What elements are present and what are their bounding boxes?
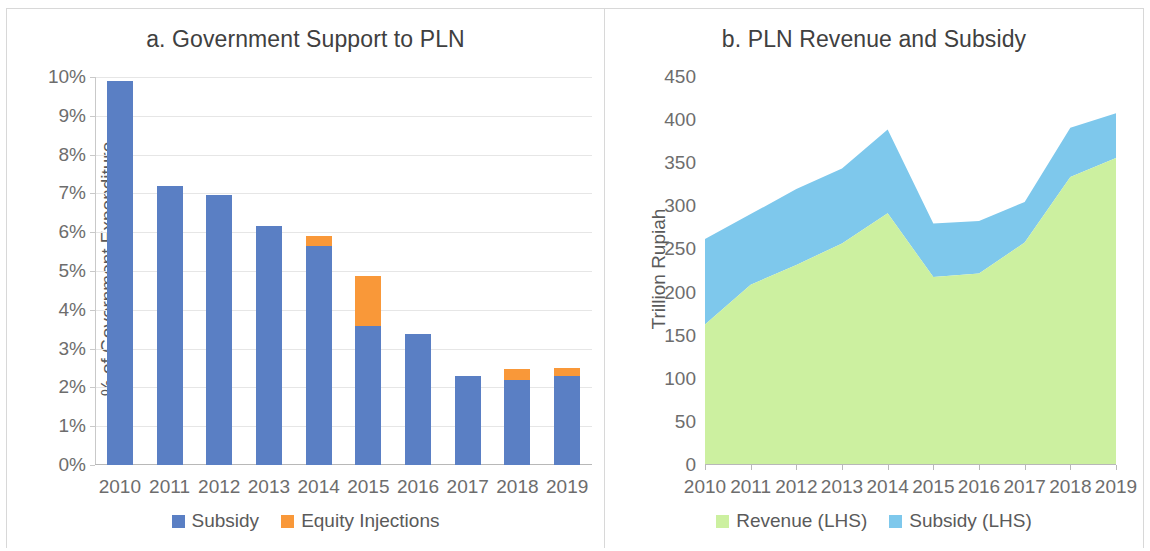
panel-b-y-axis-title: Trillion Rupiah (648, 139, 670, 399)
y-tick-label: 0 (685, 454, 696, 476)
y-tick-label: 50 (675, 411, 696, 433)
bar-segment-subsidy[interactable] (455, 376, 481, 465)
bar-segment-subsidy[interactable] (554, 376, 580, 465)
x-tickmark (842, 465, 843, 470)
legend-label: Equity Injections (301, 510, 439, 532)
panel-a-plot-area: % of Government Expenditure 0%1%2%3%4%5%… (95, 77, 592, 465)
y-tick-label: 400 (664, 109, 696, 131)
bar-segment-subsidy[interactable] (157, 186, 183, 465)
y-tick-label: 450 (664, 66, 696, 88)
y-tickmark (90, 465, 95, 466)
x-tickmark (1070, 465, 1071, 470)
bar-segment-equity-injections[interactable] (355, 276, 381, 326)
x-tickmark (1025, 465, 1026, 470)
bar-segment-subsidy[interactable] (256, 226, 282, 465)
bar-group[interactable] (306, 77, 332, 465)
x-tick-label: 2010 (99, 476, 141, 498)
x-tickmark (705, 465, 706, 470)
x-tickmark (796, 465, 797, 470)
x-tick-label: 2010 (684, 476, 726, 498)
y-tick-label: 4% (59, 299, 86, 321)
x-tickmark (1116, 465, 1117, 470)
legend-swatch-icon (281, 515, 294, 528)
y-tick-label: 200 (664, 282, 696, 304)
y-tick-label: 100 (664, 368, 696, 390)
panel-b-legend-item[interactable]: Revenue (LHS) (716, 510, 867, 532)
y-tick-label: 0% (59, 454, 86, 476)
y-tick-label: 7% (59, 182, 86, 204)
x-tick-label: 2012 (775, 476, 817, 498)
panel-b-plot-area: Trillion Rupiah 050100150200250300350400… (705, 77, 1116, 465)
bar-group[interactable] (355, 77, 381, 465)
bar-group[interactable] (455, 77, 481, 465)
panel-a-legend-item[interactable]: Subsidy (172, 510, 260, 532)
x-tick-label: 2012 (198, 476, 240, 498)
panel-b-legend-item[interactable]: Subsidy (LHS) (889, 510, 1032, 532)
legend-label: Subsidy (192, 510, 260, 532)
bar-group[interactable] (554, 77, 580, 465)
bar-group[interactable] (405, 77, 431, 465)
x-tick-label: 2016 (397, 476, 439, 498)
bar-segment-equity-injections[interactable] (554, 368, 580, 376)
x-tick-label: 2013 (248, 476, 290, 498)
figure-border-right (1143, 8, 1144, 548)
bar-group[interactable] (206, 77, 232, 465)
x-tick-label: 2019 (546, 476, 588, 498)
bar-group[interactable] (157, 77, 183, 465)
y-tick-label: 3% (59, 338, 86, 360)
x-tick-label: 2013 (821, 476, 863, 498)
y-tick-label: 8% (59, 144, 86, 166)
legend-swatch-icon (889, 515, 902, 528)
figure-root: a. Government Support to PLN % of Govern… (0, 0, 1150, 551)
x-tick-label: 2016 (958, 476, 1000, 498)
x-tick-label: 2015 (347, 476, 389, 498)
panel-b-x-axis-line (705, 464, 1116, 465)
x-tick-label: 2018 (1049, 476, 1091, 498)
y-tick-label: 6% (59, 221, 86, 243)
panel-a-government-support: a. Government Support to PLN % of Govern… (7, 8, 604, 548)
panel-b-legend: Revenue (LHS)Subsidy (LHS) (605, 510, 1143, 532)
bar-segment-subsidy[interactable] (504, 380, 530, 465)
x-tick-label: 2019 (1095, 476, 1137, 498)
panel-a-legend: SubsidyEquity Injections (7, 510, 604, 532)
bar-group[interactable] (107, 77, 133, 465)
bar-group[interactable] (256, 77, 282, 465)
bar-segment-subsidy[interactable] (355, 326, 381, 465)
bar-segment-equity-injections[interactable] (504, 369, 530, 379)
x-tickmark (979, 465, 980, 470)
y-tick-label: 10% (48, 66, 86, 88)
legend-swatch-icon (716, 515, 729, 528)
x-tick-label: 2014 (298, 476, 340, 498)
panel-a-legend-item[interactable]: Equity Injections (281, 510, 439, 532)
bar-segment-subsidy[interactable] (306, 246, 332, 465)
panel-a-title: a. Government Support to PLN (7, 26, 604, 53)
x-tick-label: 2014 (867, 476, 909, 498)
x-tick-label: 2015 (912, 476, 954, 498)
x-tickmark (888, 465, 889, 470)
y-tick-label: 250 (664, 238, 696, 260)
bar-segment-subsidy[interactable] (107, 81, 133, 465)
bar-segment-subsidy[interactable] (405, 334, 431, 465)
legend-label: Revenue (LHS) (736, 510, 867, 532)
x-tick-label: 2011 (730, 476, 771, 498)
panel-a-y-axis-line (95, 77, 96, 465)
legend-swatch-icon (172, 515, 185, 528)
y-tick-label: 5% (59, 260, 86, 282)
panel-b-title: b. PLN Revenue and Subsidy (605, 26, 1143, 53)
legend-label: Subsidy (LHS) (909, 510, 1032, 532)
y-tick-label: 2% (59, 376, 86, 398)
bar-segment-equity-injections[interactable] (306, 236, 332, 246)
y-tick-label: 300 (664, 195, 696, 217)
x-tickmark (751, 465, 752, 470)
panel-b-revenue-subsidy: b. PLN Revenue and Subsidy Trillion Rupi… (605, 8, 1143, 548)
y-tick-label: 350 (664, 152, 696, 174)
bar-segment-subsidy[interactable] (206, 195, 232, 465)
y-tick-label: 150 (664, 325, 696, 347)
bar-group[interactable] (504, 77, 530, 465)
x-tick-label: 2011 (149, 476, 190, 498)
y-tick-label: 9% (59, 105, 86, 127)
y-tick-label: 1% (59, 415, 86, 437)
x-tick-label: 2018 (496, 476, 538, 498)
x-tick-label: 2017 (1004, 476, 1046, 498)
x-tickmark (933, 465, 934, 470)
